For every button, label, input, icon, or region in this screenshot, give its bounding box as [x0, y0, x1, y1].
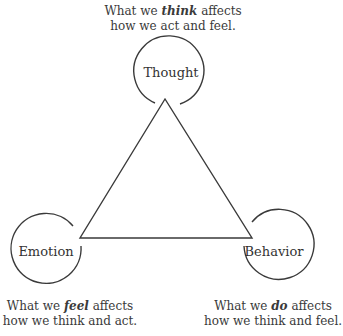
emotion-node-label: Emotion [6, 244, 86, 259]
caption-text: how we think and act. [3, 314, 137, 328]
thought-caption: What we think affects how we act and fee… [103, 4, 243, 34]
caption-text: affects [288, 299, 332, 313]
caption-text: What we [214, 299, 271, 313]
behavior-node-label: Behavior [234, 244, 314, 259]
cognitive-triangle-graphic [0, 0, 343, 336]
caption-emphasis: think [161, 4, 197, 18]
triangle-connector [80, 99, 252, 238]
caption-emphasis: do [271, 299, 287, 313]
caption-emphasis: feel [64, 299, 89, 313]
caption-text: how we act and feel. [110, 19, 235, 33]
caption-text: What we [104, 4, 161, 18]
caption-text: What we [7, 299, 64, 313]
behavior-caption: What we do affects how we think and feel… [203, 299, 343, 329]
caption-text: how we think and feel. [204, 314, 342, 328]
emotion-caption: What we feel affects how we think and ac… [0, 299, 140, 329]
caption-text: affects [197, 4, 241, 18]
caption-text: affects [89, 299, 133, 313]
thought-node-label: Thought [131, 65, 211, 80]
